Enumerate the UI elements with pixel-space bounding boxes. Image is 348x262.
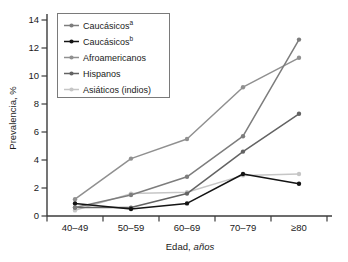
legend-label: Afroamericanos [83,53,147,63]
data-point [129,193,133,197]
y-tick-label: 12 [28,42,39,53]
data-point [241,134,245,138]
data-point [297,182,301,186]
legend-marker-dot [69,23,73,27]
data-point [185,191,189,195]
x-tick-label: 40–49 [62,222,88,233]
legend-label: Caucásicosa [83,19,134,31]
x-axis-label: Edad,años [166,241,214,252]
data-point [73,197,77,201]
data-point [297,37,301,41]
x-axis-label-italic: años [194,241,215,252]
y-axis-label: Prevalencia, % [7,86,18,149]
legend-marker-dot [69,87,73,91]
chart-canvas: 0246810121440–4950–5960–6970–79≥80Caucás… [0,0,348,262]
data-point [297,56,301,60]
x-axis-label-text: Edad, [166,241,191,252]
y-tick-label: 14 [28,14,39,25]
data-point [185,137,189,141]
data-point [129,207,133,211]
prevalence-by-age-line-chart: 0246810121440–4950–5960–6970–79≥80Caucás… [0,0,348,262]
legend-marker-dot [69,39,73,43]
data-point [297,172,301,176]
data-point [73,201,77,205]
legend-marker-dot [69,71,73,75]
data-point [297,112,301,116]
y-tick-label: 0 [34,210,39,221]
legend-label: Caucásicosb [83,35,134,47]
data-point [241,85,245,89]
x-tick-label: 60–69 [174,222,200,233]
y-tick-label: 4 [34,154,39,165]
legend-label: Asiáticos (indios) [83,85,151,95]
y-tick-label: 8 [34,98,39,109]
x-tick-label: 50–59 [118,222,144,233]
data-point [185,175,189,179]
y-tick-label: 2 [34,182,39,193]
x-tick-label: 70–79 [230,222,256,233]
legend-label: Hispanos [83,69,121,79]
data-point [185,201,189,205]
data-point [129,156,133,160]
y-tick-label: 10 [28,70,39,81]
y-tick-label: 6 [34,126,39,137]
data-point [241,172,245,176]
data-point [241,149,245,153]
data-point [73,205,77,209]
x-tick-label: ≥80 [291,222,307,233]
legend-marker-dot [69,55,73,59]
